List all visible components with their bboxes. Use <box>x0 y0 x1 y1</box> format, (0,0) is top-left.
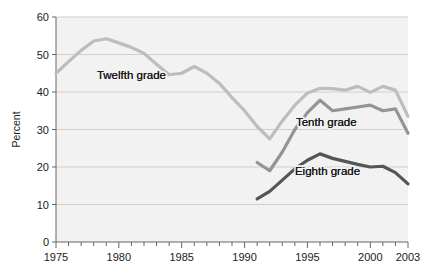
line-chart: 0102030405060197519801985199019952000200… <box>0 0 430 274</box>
series-label-tenth-grade: Tenth grade <box>296 116 357 128</box>
series-label-twelfth-grade: Twelfth grade <box>97 69 166 81</box>
y-tick-label-60: 60 <box>37 11 49 23</box>
x-tick-label-2003: 2003 <box>396 251 420 263</box>
series-label-eighth-grade: Eighth grade <box>295 165 360 177</box>
y-axis-title: Percent <box>10 111 22 147</box>
y-tick-label-30: 30 <box>37 124 49 136</box>
y-tick-label-50: 50 <box>37 49 49 61</box>
y-tick-label-20: 20 <box>37 161 49 173</box>
y-tick-label-0: 0 <box>43 236 49 248</box>
x-tick-label-2000: 2000 <box>358 251 382 263</box>
x-tick-label-1975: 1975 <box>44 251 68 263</box>
x-tick-label-1980: 1980 <box>107 251 131 263</box>
x-tick-label-1990: 1990 <box>232 251 256 263</box>
x-tick-label-1985: 1985 <box>169 251 193 263</box>
chart-container: 0102030405060197519801985199019952000200… <box>0 0 430 274</box>
x-tick-label-1995: 1995 <box>295 251 319 263</box>
y-tick-label-40: 40 <box>37 86 49 98</box>
y-tick-label-10: 10 <box>37 199 49 211</box>
